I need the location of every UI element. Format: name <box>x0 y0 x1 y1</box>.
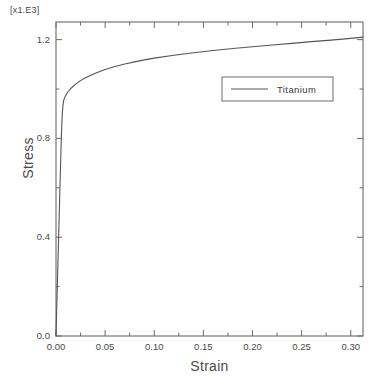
plot-frame <box>56 22 363 336</box>
x-tick-label: 0.00 <box>36 341 76 352</box>
x-tick-label: 0.10 <box>134 341 174 352</box>
legend-label-titanium: Titanium <box>277 84 316 95</box>
x-tick-label: 0.20 <box>232 341 272 352</box>
x-tick-label: 0.25 <box>282 341 322 352</box>
stress-strain-chart: [x1.E3] Stress Strain Titanium 0.00.40.8… <box>0 0 376 387</box>
x-tick-label: 0.05 <box>85 341 125 352</box>
y-tick-label: 1.2 <box>14 34 50 45</box>
y-tick-label: 0.4 <box>14 231 50 242</box>
y-tick-label: 0.8 <box>14 132 50 143</box>
x-tick-label: 0.30 <box>331 341 371 352</box>
y-tick-label: 0.0 <box>14 330 50 341</box>
x-tick-label: 0.15 <box>183 341 223 352</box>
plot-area <box>0 0 376 387</box>
